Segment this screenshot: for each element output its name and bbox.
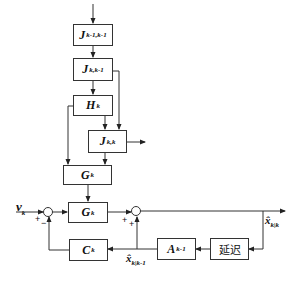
block-g-upper: Gk [63, 165, 112, 185]
block-j-prev: Jk-1,k-1 [73, 24, 113, 46]
block-c-sub: k [91, 246, 95, 254]
block-g-upper-sub: k [91, 171, 95, 179]
prediction-signal-sub: k|k-1 [132, 259, 146, 267]
block-a: Ak-1 [157, 238, 196, 260]
block-delay: 延迟 [210, 238, 249, 260]
sum2-plus-sign-bottom: + [129, 220, 134, 229]
output-signal-label: x̂k|k [265, 214, 279, 229]
block-j-upd: Jk,k [88, 130, 127, 153]
input-signal-sub: k [22, 209, 26, 217]
block-j-prev-sub: k-1,k-1 [86, 31, 106, 39]
summing-junction-output [132, 207, 141, 216]
sum2-plus-sign-left: + [122, 216, 127, 225]
block-j-upd-main: J [100, 134, 106, 149]
block-g-lower-main: G [81, 205, 90, 220]
block-j-pred-main: J [82, 62, 88, 77]
block-a-sub: k-1 [176, 245, 185, 253]
sum1-minus-sign: − [41, 219, 46, 228]
block-j-pred: Jk,k-1 [73, 58, 113, 81]
block-delay-label: 延迟 [219, 241, 241, 257]
block-g-lower-sub: k [91, 209, 95, 217]
block-c-main: C [82, 243, 90, 258]
prediction-signal-label: x̂k|k-1 [126, 252, 146, 267]
block-j-prev-main: J [79, 28, 85, 43]
block-h-sub: k [96, 102, 100, 110]
block-a-main: A [167, 242, 175, 257]
block-j-pred-sub: k,k-1 [89, 66, 104, 74]
sum1-plus-sign: + [35, 215, 40, 224]
block-g-lower: Gk [68, 202, 108, 223]
block-j-upd-sub: k,k [107, 138, 116, 146]
block-h: Hk [73, 95, 113, 116]
input-signal-label: vk [16, 199, 25, 217]
summing-junction-input [44, 208, 53, 217]
block-g-upper-main: G [81, 168, 90, 183]
block-c: Ck [69, 239, 108, 261]
output-signal-sub: k|k [271, 221, 280, 229]
block-h-main: H [86, 98, 95, 113]
